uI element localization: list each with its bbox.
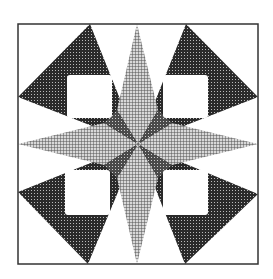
- window-bottom-right: [163, 170, 208, 215]
- window-top-right: [163, 75, 208, 118]
- window-bottom-left: [65, 170, 110, 215]
- window-top-left: [67, 75, 112, 118]
- quilt-block: [0, 0, 273, 279]
